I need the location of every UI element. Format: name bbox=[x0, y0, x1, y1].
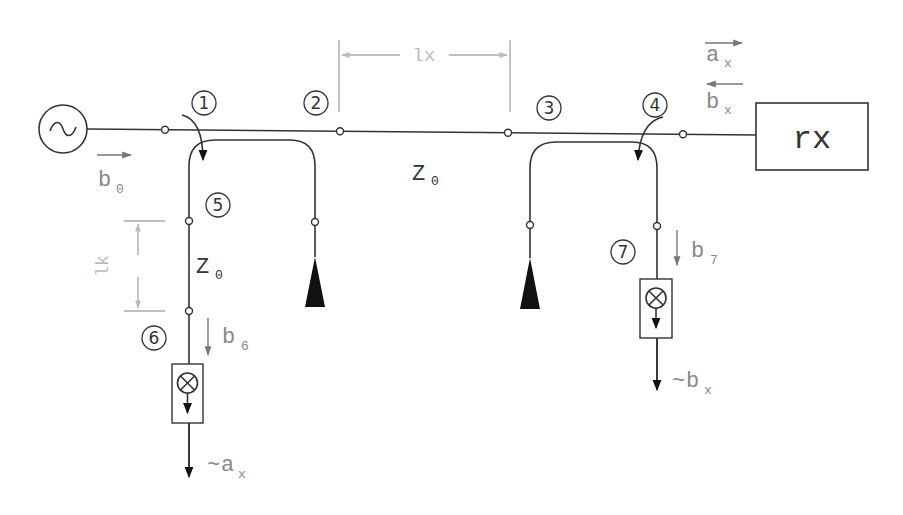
svg-text:~: ~ bbox=[207, 453, 220, 478]
svg-text:b: b bbox=[222, 325, 235, 350]
wave-b6: b 6 bbox=[208, 318, 249, 355]
svg-text:a: a bbox=[706, 43, 719, 68]
impedance-label-main: Z 0 bbox=[412, 162, 439, 189]
mixer-right bbox=[640, 279, 672, 338]
port-label-3: 3 bbox=[537, 96, 561, 120]
node-port-7 bbox=[654, 223, 661, 230]
node-right-load bbox=[527, 222, 534, 229]
node-left-load bbox=[312, 219, 319, 226]
svg-text:7: 7 bbox=[710, 253, 718, 268]
dimension-lx: lx bbox=[339, 40, 510, 112]
wave-b0: b 0 bbox=[97, 155, 131, 197]
impedance-label-branch: Z 0 bbox=[196, 255, 223, 283]
port-label-4: 4 bbox=[643, 93, 667, 117]
svg-text:~: ~ bbox=[672, 369, 685, 394]
output-label-left: ~ a x bbox=[207, 453, 246, 482]
svg-text:Z: Z bbox=[196, 255, 209, 280]
svg-text:lx: lx bbox=[413, 45, 436, 67]
port-label-6: 6 bbox=[142, 326, 166, 350]
node-port-6 bbox=[186, 308, 193, 315]
svg-text:4: 4 bbox=[650, 95, 661, 115]
port-label-7: 7 bbox=[611, 240, 635, 264]
svg-text:2: 2 bbox=[311, 93, 322, 113]
port-label-5: 5 bbox=[206, 193, 230, 217]
svg-text:b: b bbox=[686, 369, 699, 394]
left-coupler-arm bbox=[186, 140, 326, 475]
node-port-4 bbox=[680, 131, 687, 138]
right-coupler-arm bbox=[520, 142, 661, 388]
svg-text:b: b bbox=[98, 168, 111, 193]
svg-text:b: b bbox=[706, 90, 719, 115]
coupling-arrow-4-icon bbox=[638, 117, 663, 160]
receiver-rx: rx bbox=[756, 103, 868, 170]
svg-text:x: x bbox=[724, 103, 732, 118]
port-label-2: 2 bbox=[304, 91, 328, 115]
svg-text:b: b bbox=[691, 239, 704, 264]
coupling-arrow-1-icon bbox=[182, 115, 203, 160]
output-label-right: ~ b x bbox=[672, 369, 712, 398]
svg-text:rx: rx bbox=[793, 121, 831, 158]
main-transmission-line bbox=[87, 129, 756, 135]
svg-text:x: x bbox=[724, 56, 732, 71]
svg-text:6: 6 bbox=[149, 328, 160, 348]
svg-text:3: 3 bbox=[544, 98, 555, 118]
node-port-5 bbox=[186, 218, 193, 225]
svg-text:x: x bbox=[238, 467, 246, 482]
node-port-3 bbox=[505, 129, 512, 136]
svg-text:x: x bbox=[704, 383, 712, 398]
port-label-1: 1 bbox=[192, 91, 216, 115]
svg-text:7: 7 bbox=[618, 242, 629, 262]
node-port-1 bbox=[162, 126, 169, 133]
svg-text:0: 0 bbox=[431, 174, 439, 189]
node-port-2 bbox=[337, 128, 344, 135]
svg-text:a: a bbox=[221, 453, 234, 478]
mixer-left bbox=[172, 364, 203, 423]
svg-text:lk: lk bbox=[93, 255, 113, 277]
svg-text:0: 0 bbox=[116, 182, 124, 197]
directional-coupler-diagram: 1 2 3 4 5 6 7 Z 0 Z 0 lx bbox=[0, 0, 903, 515]
dimension-lk: lk bbox=[93, 221, 165, 311]
svg-text:5: 5 bbox=[213, 195, 224, 215]
wave-bx: b x bbox=[706, 84, 743, 118]
svg-text:0: 0 bbox=[215, 268, 223, 283]
signal-source bbox=[39, 105, 87, 153]
svg-text:6: 6 bbox=[241, 339, 249, 354]
svg-text:1: 1 bbox=[199, 93, 210, 113]
matched-load-left-icon bbox=[305, 257, 325, 307]
svg-text:Z: Z bbox=[412, 162, 425, 187]
wave-b7: b 7 bbox=[677, 230, 718, 268]
sine-wave-icon bbox=[50, 122, 76, 135]
wave-ax: a x bbox=[705, 43, 742, 71]
matched-load-right-icon bbox=[520, 258, 540, 309]
